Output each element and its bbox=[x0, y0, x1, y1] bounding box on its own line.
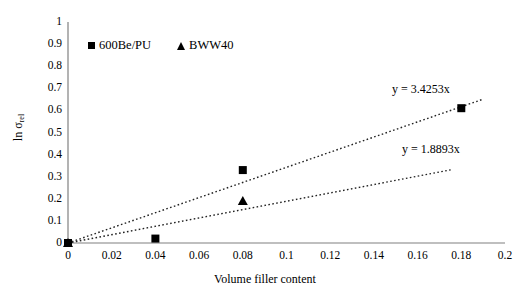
y-tick-label: 0.8 bbox=[28, 60, 62, 72]
x-tick-label: 0.2 bbox=[482, 250, 528, 262]
data-point-triangle bbox=[238, 196, 248, 205]
y-tick-label: 0.6 bbox=[28, 104, 62, 116]
y-tick-label: 0.3 bbox=[28, 171, 62, 183]
x-tick-label: 0.08 bbox=[220, 250, 266, 262]
y-tick-label: 0.1 bbox=[28, 215, 62, 227]
trendline-equation-label-1: y = 1.8893x bbox=[402, 142, 460, 157]
y-tick-label: 0.2 bbox=[28, 193, 62, 205]
y-tick-label: 0.7 bbox=[28, 82, 62, 94]
chart-container: ln σrel Volume filler content 00.10.20.3… bbox=[0, 0, 530, 293]
x-tick-label: 0 bbox=[45, 250, 91, 262]
y-axis-title-base: ln σ bbox=[11, 122, 25, 141]
triangle-marker-icon bbox=[177, 42, 185, 50]
square-marker-icon bbox=[88, 42, 95, 49]
y-axis-title: ln σrel bbox=[11, 98, 26, 158]
y-tick-label: 0.4 bbox=[28, 149, 62, 161]
legend-item-0[interactable]: 600Be/PU bbox=[88, 38, 151, 53]
y-axis-title-subscript: rel bbox=[17, 114, 26, 122]
legend-item-label: BWW40 bbox=[189, 38, 233, 53]
y-tick-label: 1 bbox=[28, 16, 62, 28]
data-point-square bbox=[239, 166, 247, 174]
trendline bbox=[68, 99, 483, 243]
x-tick-label: 0.04 bbox=[132, 250, 178, 262]
trendline-equation-label-0: y = 3.4253x bbox=[392, 82, 450, 97]
chart-legend: 600Be/PU BWW40 bbox=[88, 38, 234, 53]
trendline-group bbox=[68, 99, 483, 243]
x-tick-label: 0.16 bbox=[395, 250, 441, 262]
x-tick-label: 0.06 bbox=[176, 250, 222, 262]
x-tick-label: 0.02 bbox=[89, 250, 135, 262]
legend-item-label: 600Be/PU bbox=[99, 38, 151, 53]
legend-item-1[interactable]: BWW40 bbox=[177, 38, 233, 53]
x-tick-label: 0.14 bbox=[351, 250, 397, 262]
y-tick-label: 0.9 bbox=[28, 38, 62, 50]
x-tick-label: 0.1 bbox=[264, 250, 310, 262]
y-tick-label: 0 bbox=[28, 237, 62, 249]
x-axis-title: Volume filler content bbox=[0, 272, 530, 287]
x-tick-label: 0.18 bbox=[438, 250, 484, 262]
trendline bbox=[68, 170, 453, 243]
x-tick-label: 0.12 bbox=[307, 250, 353, 262]
data-point-square bbox=[457, 104, 465, 112]
data-point-square bbox=[151, 235, 159, 243]
y-tick-label: 0.5 bbox=[28, 127, 62, 139]
